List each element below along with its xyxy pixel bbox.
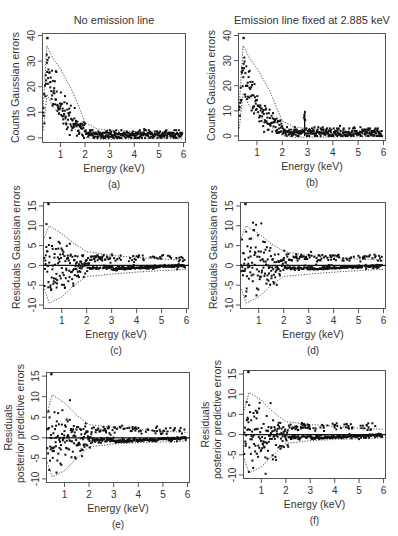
y-tick-label: 15 <box>30 370 41 382</box>
panel-caption: (f) <box>243 515 386 526</box>
x-tick-label: 2 <box>281 315 287 326</box>
y-tick-label: 5 <box>224 242 235 248</box>
data-points <box>243 371 383 475</box>
y-tick-label: 10 <box>224 220 235 232</box>
plot-area: 123456-10-5051015 <box>243 370 386 479</box>
y-tick-label: -5 <box>30 453 41 462</box>
lower-band-curve <box>44 269 186 303</box>
x-tick-label: 3 <box>111 489 117 500</box>
y-tick-label: 10 <box>27 220 38 232</box>
x-axis-label: Energy (keV) <box>43 328 189 340</box>
plot-frame <box>239 34 386 141</box>
y-tick-label: 10 <box>26 106 37 118</box>
x-tick-label: 5 <box>160 489 166 500</box>
x-tick-label: 5 <box>356 315 362 326</box>
y-tick-label: -5 <box>224 280 235 289</box>
upper-band-curve <box>244 392 383 429</box>
x-tick-label: 1 <box>254 147 260 158</box>
x-tick-label: 1 <box>59 315 65 326</box>
y-axis-label: Residualsposterior predictive errors <box>199 370 223 479</box>
chart-panel-e: 123456-10-5051015 <box>46 372 190 483</box>
y-tick-label: 0 <box>26 135 37 141</box>
y-tick-label: -10 <box>27 297 38 312</box>
y-tick-label: 30 <box>26 55 37 67</box>
x-tick-label: 3 <box>305 147 311 158</box>
x-tick-label: 1 <box>256 315 262 326</box>
lower-band-curve <box>47 441 187 477</box>
y-axis-label: Residuals Gaussian errors <box>10 202 22 309</box>
x-tick-label: 6 <box>381 147 387 158</box>
y-tick-label: 40 <box>222 30 233 42</box>
chart-panel-d: 123456-10-5051015 <box>240 202 386 309</box>
x-tick-label: 4 <box>331 315 337 326</box>
chart-panel-f: 123456-10-5051015 <box>243 370 386 479</box>
y-tick-label: 5 <box>30 414 41 420</box>
y-axis-label: Residualsposterior predictive errors <box>2 372 26 483</box>
y-tick-label: -5 <box>27 280 38 289</box>
y-tick-label: 15 <box>227 368 238 380</box>
x-tick-label: 3 <box>307 485 313 496</box>
x-tick-label: 2 <box>84 315 90 326</box>
x-tick-label: 6 <box>381 315 387 326</box>
y-tick-label: 0 <box>224 262 235 268</box>
x-tick-label: 1 <box>58 149 64 160</box>
x-tick-label: 4 <box>132 149 138 160</box>
plot-area: 123456010203040 <box>42 33 186 143</box>
y-tick-label: 5 <box>27 242 38 248</box>
upper-band-curve <box>43 46 183 133</box>
plot-area: 123456-10-5051015 <box>46 372 190 483</box>
data-points <box>46 373 187 474</box>
data-points <box>43 203 186 291</box>
x-tick-label: 3 <box>306 315 312 326</box>
plot-frame <box>241 203 386 309</box>
right-column-title: Emission line fixed at 2.885 keV <box>228 14 396 26</box>
y-axis-label: Counts Gaussian errors <box>9 33 21 143</box>
panel-caption: (e) <box>46 519 190 530</box>
x-tick-label: 6 <box>381 485 387 496</box>
y-tick-label: 0 <box>222 133 233 139</box>
x-tick-label: 5 <box>159 315 165 326</box>
data-points <box>240 203 382 297</box>
x-tick-label: 6 <box>185 489 191 500</box>
x-tick-label: 6 <box>184 315 190 326</box>
x-tick-label: 2 <box>283 485 289 496</box>
x-tick-label: 2 <box>86 489 92 500</box>
data-points <box>238 37 383 137</box>
x-axis-label: Energy (keV) <box>238 160 386 172</box>
y-axis-label: Residuals Gaussian errors <box>207 202 219 309</box>
plot-frame <box>244 371 386 479</box>
y-axis-label: Counts Gaussian errors <box>205 33 217 141</box>
y-tick-label: -10 <box>224 297 235 312</box>
y-tick-label: 0 <box>227 431 238 437</box>
chart-panel-a: 123456010203040 <box>42 33 186 143</box>
x-tick-label: 2 <box>82 149 88 160</box>
x-tick-label: 1 <box>259 485 265 496</box>
y-tick-label: 20 <box>222 80 233 92</box>
x-tick-label: 4 <box>136 489 142 500</box>
lower-band-curve <box>241 269 383 303</box>
chart-panel-c: 123456-10-5051015 <box>43 202 189 309</box>
y-tick-label: 30 <box>222 55 233 67</box>
panel-caption: (d) <box>240 345 386 356</box>
panel-caption: (a) <box>42 179 186 190</box>
x-tick-label: 3 <box>109 315 115 326</box>
x-axis-label: Energy (keV) <box>240 328 386 340</box>
y-tick-label: 20 <box>26 81 37 93</box>
x-tick-label: 2 <box>279 147 285 158</box>
y-tick-label: 0 <box>27 262 38 268</box>
x-axis-label: Energy (keV) <box>46 502 190 514</box>
x-axis-label: Energy (keV) <box>42 162 186 174</box>
plot-area: 123456-10-5051015 <box>240 202 386 309</box>
y-tick-label: 15 <box>27 200 38 212</box>
upper-band-curve <box>44 226 186 260</box>
x-tick-label: 5 <box>356 485 362 496</box>
left-column-title: No emission line <box>42 14 186 26</box>
y-tick-label: 10 <box>30 391 41 403</box>
plot-frame <box>43 34 186 143</box>
y-tick-label: 40 <box>26 30 37 42</box>
y-tick-label: -10 <box>227 467 238 482</box>
plot-area: 123456010203040 <box>238 33 386 141</box>
chart-panel-b: 123456010203040 <box>238 33 386 141</box>
y-tick-label: 0 <box>30 435 41 441</box>
x-tick-label: 5 <box>355 147 361 158</box>
